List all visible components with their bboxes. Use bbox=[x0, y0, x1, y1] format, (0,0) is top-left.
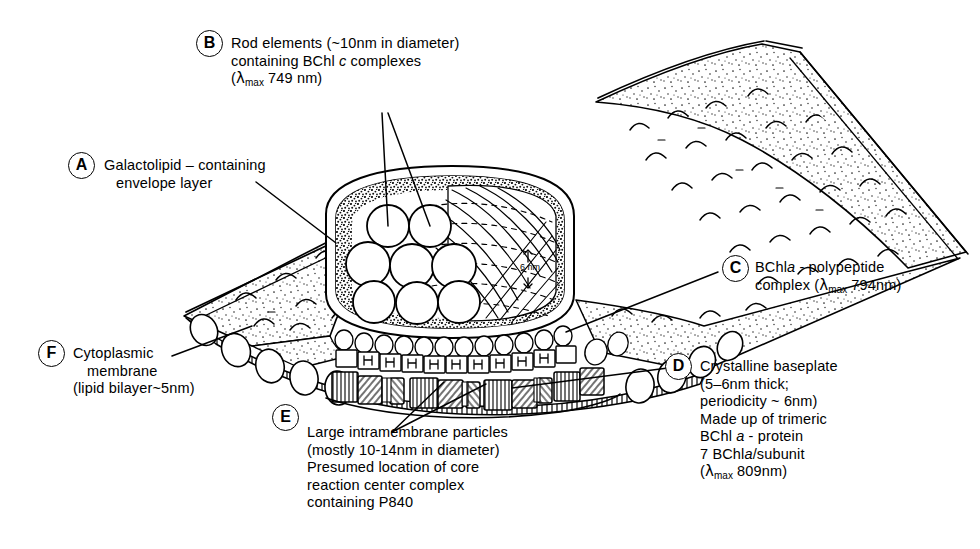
scale-unit: nm bbox=[528, 262, 541, 272]
callout-b-line-3: (λmax 749 nm) bbox=[231, 70, 459, 91]
callout-b-l3-post: 749 nm) bbox=[264, 70, 322, 86]
callout-c-l2-post: 794nm) bbox=[847, 277, 901, 293]
callout-d-l7-post: 809nm) bbox=[733, 463, 787, 479]
callout-a-line-2: envelope layer bbox=[104, 175, 266, 193]
callout-badge-d[interactable]: D bbox=[665, 353, 692, 380]
callout-badge-c[interactable]: C bbox=[722, 255, 749, 282]
callout-d-l7-sub: max bbox=[714, 470, 733, 481]
callout-e-line-4: reaction center complex bbox=[307, 477, 508, 495]
callout-d-l5-pre: BChl bbox=[700, 428, 736, 444]
callout-badge-e[interactable]: E bbox=[272, 404, 299, 431]
callout-d-line-3: periodicity ~ 6nm) bbox=[700, 393, 838, 411]
callout-d-line-2: (5–6nm thick; bbox=[700, 376, 838, 394]
callout-f-line-3: (lipid bilayer~5nm) bbox=[73, 380, 195, 398]
callout-e-text: Large intramembrane particles (mostly 10… bbox=[307, 424, 508, 512]
callout-c-l1-post: - polypeptide bbox=[795, 259, 884, 275]
callout-e-line-1: Large intramembrane particles bbox=[307, 424, 508, 442]
callout-d-line-5: BChl a - protein bbox=[700, 428, 838, 446]
callout-b-l3-sub: max bbox=[245, 77, 264, 88]
callout-d-l6-pre: 7 BChl bbox=[700, 446, 744, 462]
callout-b-line-2: containing BChl c complexes bbox=[231, 53, 459, 71]
callout-b-text: Rod elements (~10nm in diameter) contain… bbox=[231, 35, 459, 91]
callout-d-line-6: 7 BChla/subunit bbox=[700, 446, 838, 464]
callout-a-text: Galactolipid – containing envelope layer bbox=[104, 157, 266, 192]
callout-d-l5-post: - protein bbox=[744, 428, 803, 444]
lambda-glyph: λ bbox=[819, 276, 828, 294]
callout-f-line-2: membrane bbox=[73, 363, 195, 381]
callout-c-line-1: BChla - polypeptide bbox=[755, 259, 901, 277]
callout-a-line-1: Galactolipid – containing bbox=[104, 157, 266, 175]
scale-label-6nm: 6 nm bbox=[520, 262, 540, 272]
leader-A bbox=[256, 182, 336, 243]
lambda-glyph: λ bbox=[705, 462, 714, 480]
callout-b-l2-pre: containing BChl bbox=[231, 53, 339, 69]
callout-c-l1-pre: BChl bbox=[755, 259, 787, 275]
callout-d-line-1: Crystalline baseplate bbox=[700, 358, 838, 376]
callout-f-line-1: Cytoplasmic bbox=[73, 345, 195, 363]
callout-d-text: Crystalline baseplate (5–6nm thick; peri… bbox=[700, 358, 838, 484]
callout-b-line-1: Rod elements (~10nm in diameter) bbox=[231, 35, 459, 53]
callout-e-line-5: containing P840 bbox=[307, 494, 508, 512]
callout-badge-f[interactable]: F bbox=[38, 340, 65, 367]
callout-d-line-7: (λmax 809nm) bbox=[700, 463, 838, 484]
callout-e-line-2: (mostly 10-14nm in diameter) bbox=[307, 442, 508, 460]
callout-d-l6-post: /subunit bbox=[753, 446, 805, 462]
callout-d-line-4: Made up of trimeric bbox=[700, 411, 838, 429]
callout-f-text: Cytoplasmic membrane (lipid bilayer~5nm) bbox=[73, 345, 195, 398]
callout-e-line-3: Presumed location of core bbox=[307, 459, 508, 477]
callout-b-l2-post: complexes bbox=[346, 53, 421, 69]
lambda-glyph: λ bbox=[236, 69, 245, 87]
callout-badge-a[interactable]: A bbox=[68, 152, 95, 179]
callout-c-l2-pre: complex ( bbox=[755, 277, 819, 293]
callout-badge-b[interactable]: B bbox=[196, 30, 223, 57]
figure-canvas: A Galactolipid – containing envelope lay… bbox=[0, 0, 980, 549]
callout-c-l2-sub: max bbox=[828, 283, 847, 294]
callout-c-text: BChla - polypeptide complex (λmax 794nm) bbox=[755, 259, 901, 298]
callout-c-line-2: complex (λmax 794nm) bbox=[755, 277, 901, 298]
scale-value: 6 bbox=[520, 262, 525, 272]
callout-d-l6-italic: a bbox=[744, 446, 752, 462]
chlorosome-envelope bbox=[326, 166, 574, 338]
